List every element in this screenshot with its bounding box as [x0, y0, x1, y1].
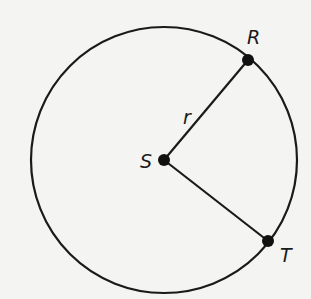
label-radius-r: r [183, 106, 192, 128]
circle-diagram: S R T r [0, 0, 311, 299]
point-r [242, 54, 254, 66]
label-s: S [140, 150, 152, 172]
label-t: T [280, 244, 293, 266]
center-point-s [158, 154, 170, 166]
radius-segment-st [164, 160, 268, 241]
label-r: R [247, 26, 260, 48]
radius-segment-sr [164, 60, 248, 160]
point-t [262, 235, 274, 247]
